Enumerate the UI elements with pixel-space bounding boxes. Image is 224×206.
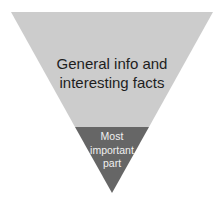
lower-label-line-2: important [70,144,154,158]
inverted-pyramid-diagram [0,0,224,206]
lower-section-label: Most important part [70,130,154,171]
upper-label-line-1: General info and [20,54,204,73]
lower-label-line-3: part [70,157,154,171]
upper-label-line-2: interesting facts [20,73,204,92]
lower-label-line-1: Most [70,130,154,144]
upper-section-label: General info and interesting facts [20,54,204,92]
